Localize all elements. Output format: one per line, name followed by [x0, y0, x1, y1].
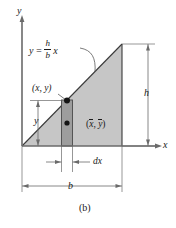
x-axis-arrowhead — [155, 144, 162, 149]
dim-b-arrowhead-left — [23, 184, 29, 188]
height-dimension-label: h — [144, 88, 149, 98]
figure-container: y x y = h b x (x, y) (x, y) y h b dx (b) — [0, 0, 176, 228]
strip-height-dimension-label: y — [34, 116, 38, 126]
y-axis-label: y — [17, 6, 21, 16]
equation-fraction: h b — [44, 39, 51, 60]
centroid-label: (x, y) — [86, 119, 106, 130]
figure-caption: (b) — [79, 203, 91, 213]
centroid-comma: , — [93, 119, 95, 129]
curve-point-marker — [64, 98, 70, 104]
equation-lhs: y — [29, 46, 33, 56]
x-axis-label: x — [163, 140, 167, 150]
centroid-x-bar: x — [89, 119, 93, 130]
base-dimension-label: b — [68, 181, 73, 191]
centroid-paren-close: ) — [102, 119, 105, 129]
dim-b-arrowhead-right — [116, 184, 122, 188]
equation-numerator: h — [44, 39, 51, 49]
centroid-point-marker — [64, 120, 69, 125]
equation-variable: x — [53, 46, 57, 56]
triangle-centroid-diagram — [0, 0, 176, 228]
equation-denominator: b — [44, 50, 51, 60]
dim-dx-arrowhead-left — [55, 160, 61, 164]
dim-h-arrowhead-bottom — [146, 140, 150, 146]
equation-leader-line — [80, 48, 95, 72]
dim-dx-arrowhead-right — [73, 160, 79, 164]
curve-equation-label: y = h b x — [29, 40, 58, 61]
dim-h-arrowhead-top — [146, 45, 150, 51]
dim-y-arrowhead-top — [36, 101, 40, 107]
centroid-y-bar: y — [98, 119, 102, 130]
strip-width-dimension-label: dx — [93, 157, 102, 167]
y-axis-arrowhead — [20, 15, 25, 22]
curve-point-label: (x, y) — [32, 84, 52, 94]
equation-equals: = — [35, 46, 42, 56]
